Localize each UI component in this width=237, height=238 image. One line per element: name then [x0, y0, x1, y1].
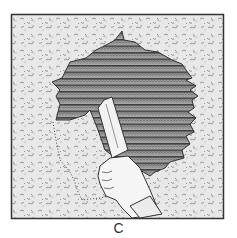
figure-caption: C: [0, 219, 237, 237]
plaster-repair-drawing: [0, 0, 237, 238]
illustration: C: [0, 0, 237, 238]
